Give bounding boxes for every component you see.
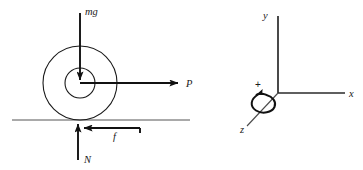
rotation-curve-arrowhead-segment — [257, 94, 266, 95]
applied-force-label: P — [185, 78, 193, 89]
weight-force-label: mg — [85, 6, 98, 17]
normal-force-label: N — [83, 154, 92, 165]
figure-canvas: mg P f N y x — [0, 0, 363, 170]
coordinate-axes: y x z + — [239, 10, 354, 135]
spool-free-body-diagram: mg P f N — [12, 6, 193, 165]
friction-force-label: f — [113, 131, 118, 142]
positive-rotation-sign: + — [255, 79, 261, 90]
rotation-curve-path — [252, 95, 275, 113]
z-axis-label: z — [239, 124, 244, 135]
rotation-curve-icon — [252, 94, 275, 113]
physics-figure: mg P f N y x — [0, 0, 363, 170]
x-axis-label: x — [348, 88, 354, 99]
friction-force-arrow — [84, 128, 140, 133]
y-axis-label: y — [262, 10, 268, 21]
